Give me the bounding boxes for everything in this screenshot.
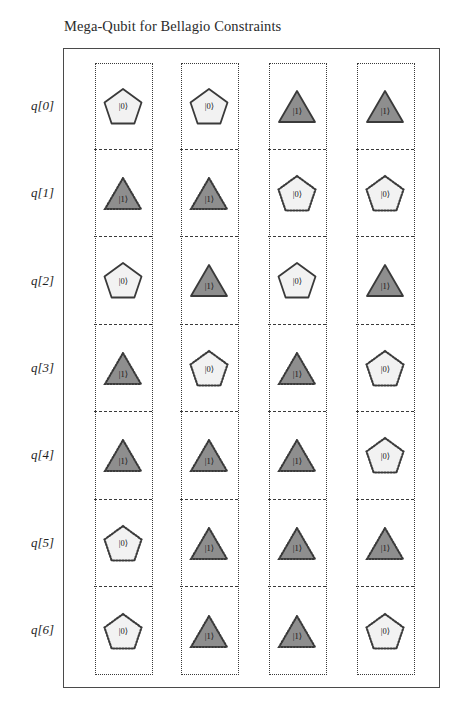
triangle-icon	[189, 524, 229, 562]
circuit-cell[interactable]: |0⟩	[356, 412, 414, 499]
qubit-state-triangle[interactable]: |1⟩	[189, 524, 229, 562]
triangle-icon	[365, 87, 405, 125]
pentagon-icon	[365, 349, 405, 387]
qubit-state-pentagon[interactable]: |0⟩	[365, 174, 405, 212]
qubit-state-triangle[interactable]: |1⟩	[365, 261, 405, 299]
row-label-q2: q[2]	[0, 273, 54, 289]
triangle-icon	[277, 87, 317, 125]
qubit-state-triangle[interactable]: |1⟩	[103, 174, 143, 212]
qubit-state-triangle[interactable]: |1⟩	[103, 349, 143, 387]
circuit-cell[interactable]: |1⟩	[180, 150, 238, 237]
qubit-state-triangle[interactable]: |1⟩	[189, 261, 229, 299]
circuit-cell[interactable]: |1⟩	[268, 325, 326, 412]
qubit-state-triangle[interactable]: |1⟩	[277, 349, 317, 387]
qubit-state-triangle[interactable]: |1⟩	[189, 612, 229, 650]
circuit-cell[interactable]: |0⟩	[268, 237, 326, 324]
qubit-state-pentagon[interactable]: |0⟩	[365, 612, 405, 650]
row-label-q4: q[4]	[0, 447, 54, 463]
qubit-state-pentagon[interactable]: |0⟩	[103, 87, 143, 125]
pentagon-icon	[103, 87, 143, 125]
circuit-cell[interactable]: |1⟩	[94, 412, 152, 499]
pentagon-icon	[189, 349, 229, 387]
row-label-q6: q[6]	[0, 622, 54, 638]
circuit-cell[interactable]: |1⟩	[180, 587, 238, 674]
row-label-q1: q[1]	[0, 185, 54, 201]
triangle-icon	[189, 261, 229, 299]
circuit-cell[interactable]: |1⟩	[94, 325, 152, 412]
row-label-q3: q[3]	[0, 360, 54, 376]
circuit-cell[interactable]: |0⟩	[180, 325, 238, 412]
triangle-icon	[189, 612, 229, 650]
triangle-icon	[365, 261, 405, 299]
triangle-icon	[189, 174, 229, 212]
triangle-icon	[103, 174, 143, 212]
qubit-state-pentagon[interactable]: |0⟩	[189, 349, 229, 387]
pentagon-icon	[365, 436, 405, 474]
qubit-state-pentagon[interactable]: |0⟩	[103, 612, 143, 650]
circuit-cell[interactable]: |1⟩	[180, 500, 238, 587]
circuit-cell[interactable]: |0⟩	[180, 62, 238, 149]
triangle-icon	[103, 349, 143, 387]
circuit-cell[interactable]: |0⟩	[356, 325, 414, 412]
triangle-icon	[277, 612, 317, 650]
qubit-state-pentagon[interactable]: |0⟩	[277, 261, 317, 299]
circuit-cell[interactable]: |1⟩	[268, 587, 326, 674]
qubit-state-pentagon[interactable]: |0⟩	[103, 261, 143, 299]
page-title: Mega-Qubit for Bellagio Constraints	[64, 18, 281, 35]
qubit-state-triangle[interactable]: |1⟩	[365, 87, 405, 125]
triangle-icon	[277, 349, 317, 387]
circuit-frame: |0⟩|1⟩|0⟩|1⟩|1⟩|0⟩|0⟩|0⟩|1⟩|1⟩|0⟩|1⟩|1⟩|…	[63, 48, 440, 688]
pentagon-icon	[277, 174, 317, 212]
qubit-state-triangle[interactable]: |1⟩	[277, 612, 317, 650]
circuit-cell[interactable]: |1⟩	[94, 150, 152, 237]
triangle-icon	[277, 436, 317, 474]
circuit-column-1[interactable]: |0⟩|1⟩|0⟩|1⟩|1⟩|0⟩|0⟩	[95, 63, 153, 675]
circuit-column-2[interactable]: |0⟩|1⟩|1⟩|0⟩|1⟩|1⟩|1⟩	[181, 63, 239, 675]
triangle-icon	[189, 436, 229, 474]
qubit-state-pentagon[interactable]: |0⟩	[103, 524, 143, 562]
qubit-state-pentagon[interactable]: |0⟩	[277, 174, 317, 212]
pentagon-icon	[103, 524, 143, 562]
qubit-state-triangle[interactable]: |1⟩	[277, 524, 317, 562]
circuit-cell[interactable]: |0⟩	[356, 150, 414, 237]
qubit-state-pentagon[interactable]: |0⟩	[365, 349, 405, 387]
row-label-q5: q[5]	[0, 535, 54, 551]
pentagon-icon	[277, 261, 317, 299]
circuit-cell[interactable]: |1⟩	[356, 62, 414, 149]
qubit-state-triangle[interactable]: |1⟩	[277, 87, 317, 125]
circuit-cell[interactable]: |1⟩	[268, 412, 326, 499]
circuit-cell[interactable]: |1⟩	[180, 412, 238, 499]
pentagon-icon	[103, 612, 143, 650]
circuit-column-4[interactable]: |1⟩|0⟩|1⟩|0⟩|0⟩|1⟩|0⟩	[357, 63, 415, 675]
pentagon-icon	[365, 174, 405, 212]
circuit-cell[interactable]: |1⟩	[268, 500, 326, 587]
qubit-state-pentagon[interactable]: |0⟩	[365, 436, 405, 474]
qubit-state-triangle[interactable]: |1⟩	[277, 436, 317, 474]
triangle-icon	[365, 524, 405, 562]
circuit-cell[interactable]: |1⟩	[268, 62, 326, 149]
pentagon-icon	[189, 87, 229, 125]
qubit-state-triangle[interactable]: |1⟩	[189, 174, 229, 212]
circuit-cell[interactable]: |0⟩	[356, 587, 414, 674]
row-label-q0: q[0]	[0, 98, 54, 114]
circuit-cell[interactable]: |0⟩	[94, 237, 152, 324]
circuit-cell[interactable]: |0⟩	[94, 587, 152, 674]
pentagon-icon	[103, 261, 143, 299]
pentagon-icon	[365, 612, 405, 650]
circuit-cell[interactable]: |1⟩	[356, 237, 414, 324]
qubit-state-triangle[interactable]: |1⟩	[365, 524, 405, 562]
circuit-cell[interactable]: |1⟩	[356, 500, 414, 587]
qubit-state-triangle[interactable]: |1⟩	[103, 436, 143, 474]
triangle-icon	[103, 436, 143, 474]
triangle-icon	[277, 524, 317, 562]
qubit-state-triangle[interactable]: |1⟩	[189, 436, 229, 474]
circuit-cell[interactable]: |0⟩	[94, 500, 152, 587]
row-label-gutter: q[0]q[1]q[2]q[3]q[4]q[5]q[6]	[0, 48, 60, 688]
circuit-cell[interactable]: |1⟩	[180, 237, 238, 324]
circuit-cell[interactable]: |0⟩	[268, 150, 326, 237]
qubit-state-pentagon[interactable]: |0⟩	[189, 87, 229, 125]
circuit-cell[interactable]: |0⟩	[94, 62, 152, 149]
circuit-column-3[interactable]: |1⟩|0⟩|0⟩|1⟩|1⟩|1⟩|1⟩	[269, 63, 327, 675]
